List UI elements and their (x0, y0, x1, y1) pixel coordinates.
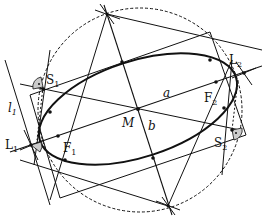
label-l1: l1 (8, 101, 17, 117)
point-ellipse-5 (63, 158, 67, 162)
ellipse-construction-diagram: S1 S2 L1 L2 F1 F2 l1 M a b (0, 0, 262, 217)
right-angle-S1 (33, 77, 43, 89)
point-bottom (167, 205, 170, 208)
label-F2: F2 (204, 91, 217, 107)
point-top (106, 13, 109, 16)
right-angle-S1-dot (38, 83, 40, 85)
line-top-right (107, 14, 262, 50)
label-a: a (163, 86, 170, 100)
label-F1: F1 (63, 141, 76, 157)
label-b: b (148, 119, 156, 133)
point-S1 (41, 87, 45, 91)
point-ellipse-4 (208, 58, 212, 62)
point-F2 (214, 80, 218, 84)
line-bottom-right (168, 60, 232, 206)
point-ellipse-1 (120, 60, 124, 64)
label-L1: L1 (5, 138, 18, 154)
point-M (136, 107, 140, 111)
right-angle-S2-dot (235, 132, 237, 134)
label-M: M (121, 116, 135, 130)
line-bottom-left (20, 160, 168, 206)
point-L1 (29, 143, 33, 147)
point-ellipse-2 (151, 156, 155, 160)
label-S1: S1 (46, 73, 59, 89)
line-through-S2 (222, 60, 232, 175)
label-L2: L2 (229, 53, 242, 69)
point-ellipse-6 (222, 106, 226, 110)
point-ellipse-3 (48, 110, 52, 114)
point-F1 (56, 134, 60, 138)
line-l1 (5, 60, 50, 205)
point-L2 (242, 71, 246, 75)
point-S2 (230, 128, 234, 132)
